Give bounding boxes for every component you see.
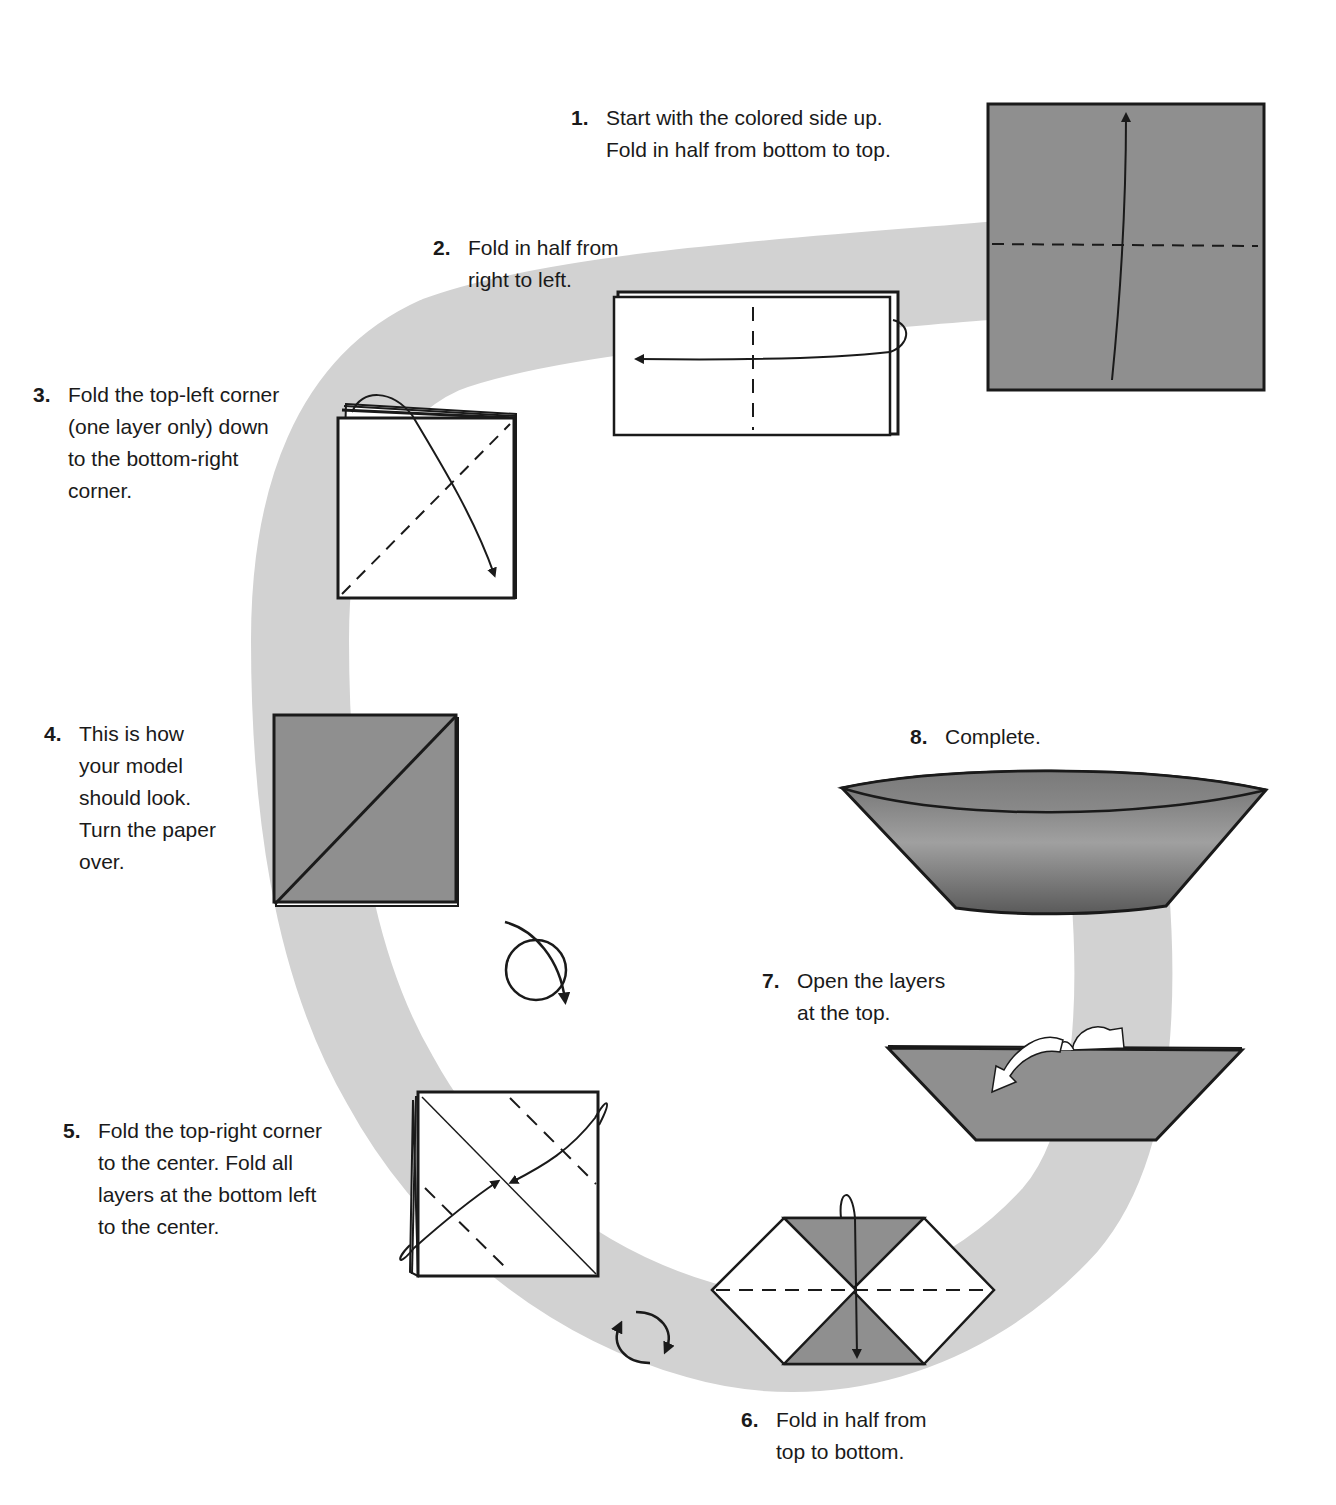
step-8-figure (842, 771, 1266, 914)
step-number: 2. (433, 232, 451, 264)
step-5-figure (400, 1092, 607, 1276)
step-number: 1. (571, 102, 589, 134)
step-2-figure (614, 292, 906, 435)
step-text: Start with the colored side up. Fold in … (571, 102, 971, 166)
step-number: 8. (910, 721, 928, 753)
step-2-label: 2. Fold in half from right to left. (433, 232, 693, 296)
step-3-label: 3. Fold the top-left corner (one layer o… (33, 379, 333, 507)
step-number: 7. (762, 965, 780, 997)
step-7-label: 7. Open the layers at the top. (762, 965, 992, 1029)
step-1-figure (988, 104, 1264, 390)
step-text: This is how your model should look. Turn… (44, 718, 264, 878)
step-8-label: 8. Complete. (910, 721, 1110, 753)
turn-over-icon (505, 922, 566, 1000)
step-4-figure (274, 715, 458, 906)
step-number: 3. (33, 379, 51, 411)
step-7-figure (888, 1027, 1242, 1140)
step-text: Open the layers at the top. (762, 965, 992, 1029)
step-5-label: 5. Fold the top-right corner to the cent… (63, 1115, 383, 1243)
step-text: Fold the top-left corner (one layer only… (33, 379, 333, 507)
step-number: 5. (63, 1115, 81, 1147)
step-text: Fold in half from top to bottom. (741, 1404, 981, 1468)
step-number: 6. (741, 1404, 759, 1436)
step-6-label: 6. Fold in half from top to bottom. (741, 1404, 981, 1468)
step-number: 4. (44, 718, 62, 750)
step-3-figure (338, 395, 516, 598)
step-4-label: 4. This is how your model should look. T… (44, 718, 264, 878)
step-text: Fold the top-right corner to the center.… (63, 1115, 383, 1243)
step-text: Fold in half from right to left. (433, 232, 693, 296)
step-1-label: 1. Start with the colored side up. Fold … (571, 102, 971, 166)
step-text: Complete. (910, 721, 1110, 753)
